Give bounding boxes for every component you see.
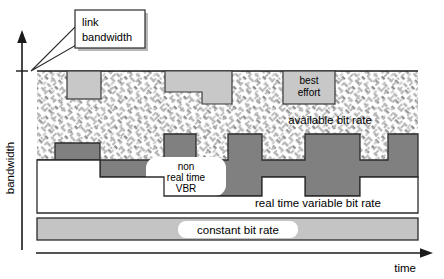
constant-bit-rate-region: constant bit rate (37, 218, 418, 240)
best-effort-label-line1: best (300, 75, 319, 86)
constant-bit-rate-label: constant bit rate (197, 224, 279, 236)
callout-label-line2: bandwidth (82, 31, 132, 43)
link-bandwidth-callout: link bandwidth (31, 10, 148, 71)
best-effort-label-line2: effort (298, 87, 321, 98)
x-axis-label: time (394, 262, 416, 274)
y-axis-label: bandwidth (4, 142, 16, 194)
real-time-vbr-label: real time variable bit rate (255, 197, 381, 209)
y-axis-arrowhead (17, 30, 27, 43)
figure-container: bandwidth time best effort available bit… (0, 0, 444, 279)
nrt-vbr-label-line1: non (178, 161, 195, 172)
callout-label-line1: link (82, 16, 99, 28)
nrt-vbr-label-line2: real time (167, 172, 206, 183)
x-axis-arrowhead (420, 248, 433, 258)
available-bit-rate-label: available bit rate (288, 114, 372, 126)
callout-pointer (31, 24, 78, 71)
nrt-vbr-label-line3: VBR (176, 183, 197, 194)
best-effort-box-1 (67, 71, 101, 99)
bandwidth-allocation-diagram: bandwidth time best effort available bit… (0, 0, 444, 279)
